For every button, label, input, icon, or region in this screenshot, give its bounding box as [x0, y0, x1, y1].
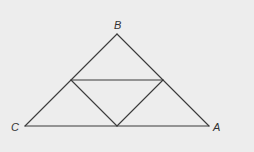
vertex-label-c: C: [11, 121, 19, 133]
midsegment-left: [71, 80, 117, 126]
vertex-label-a: A: [212, 121, 220, 133]
triangle-diagram: B C A: [0, 0, 254, 152]
midsegment-right: [117, 80, 163, 126]
vertex-label-b: B: [114, 19, 121, 31]
